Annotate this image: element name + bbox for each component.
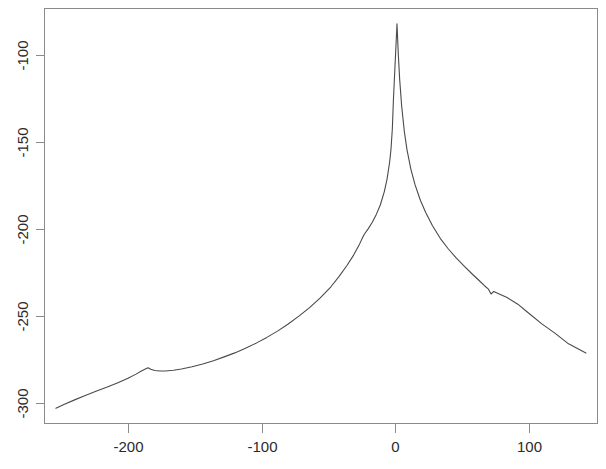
y-tick-label: -100: [14, 40, 31, 70]
line-chart: -200-1000100 -100-150-200-250-300: [0, 0, 606, 469]
y-tick-label: -200: [14, 214, 31, 244]
y-tick-label: -250: [14, 301, 31, 331]
x-tick-label: -100: [247, 438, 277, 455]
x-tick-label: 0: [391, 438, 399, 455]
x-axis-tick-labels: -200-1000100: [113, 438, 542, 455]
chart-container: -200-1000100 -100-150-200-250-300: [0, 0, 606, 469]
x-tick-label: 100: [517, 438, 542, 455]
y-tick-label: -150: [14, 127, 31, 157]
data-series-profile: [56, 24, 586, 409]
plot-box-border: [45, 9, 598, 424]
y-axis-tick-labels: -100-150-200-250-300: [14, 40, 31, 418]
y-tick-label: -300: [14, 388, 31, 418]
y-axis-ticks: [36, 56, 45, 404]
x-axis-ticks: [129, 424, 530, 433]
x-tick-label: -200: [113, 438, 143, 455]
